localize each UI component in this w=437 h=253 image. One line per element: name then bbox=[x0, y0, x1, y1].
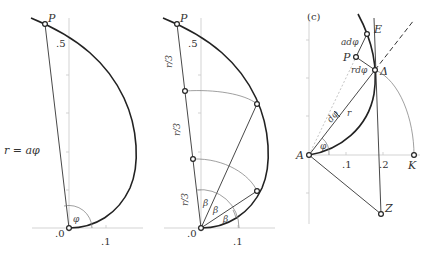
label-P: P bbox=[47, 12, 56, 25]
point-P bbox=[175, 22, 180, 27]
point-P bbox=[43, 22, 48, 27]
label-segment-bottom: r/3 bbox=[180, 193, 190, 206]
panel-a: P .5 .0 .1 r = aφ φ bbox=[4, 12, 143, 247]
label-origin: .0 bbox=[187, 228, 197, 239]
label-Z: Z bbox=[384, 202, 393, 215]
origin-point bbox=[199, 226, 204, 231]
label-beta-1: β bbox=[202, 198, 208, 208]
point-K bbox=[412, 153, 417, 158]
label-beta-2: β bbox=[212, 205, 218, 215]
label-y-tick: .5 bbox=[56, 38, 66, 49]
radius-A-P bbox=[309, 57, 356, 155]
radius-line bbox=[45, 24, 69, 228]
arc-delta-K bbox=[375, 70, 414, 155]
label-angle: φ bbox=[320, 141, 327, 151]
label-d-phi: dφ bbox=[325, 108, 341, 124]
curve-point-lower bbox=[255, 189, 260, 194]
label-x-tick-1: .1 bbox=[342, 159, 352, 170]
label-delta: Δ bbox=[379, 65, 388, 78]
panel-tag: (c) bbox=[307, 11, 321, 22]
curve-point-upper bbox=[255, 102, 260, 107]
point-A bbox=[307, 153, 312, 158]
point-Z bbox=[379, 212, 384, 217]
point-E bbox=[365, 32, 370, 37]
label-P: P bbox=[342, 51, 351, 64]
label-ad-phi: adφ bbox=[341, 37, 359, 47]
label-r: r bbox=[347, 108, 352, 118]
origin-point bbox=[67, 226, 72, 231]
trisect-point-upper bbox=[183, 89, 188, 94]
label-angle: φ bbox=[73, 214, 80, 224]
panel-c: (c) E P Δ A K Z adφ rdφ dφ r φ .1 .2 bbox=[295, 11, 420, 224]
line-E-Z bbox=[374, 18, 381, 214]
spiral-curve bbox=[31, 18, 136, 228]
label-E: E bbox=[373, 23, 382, 36]
label-rd-phi: rdφ bbox=[351, 65, 368, 75]
point-delta bbox=[373, 68, 378, 73]
label-origin: .0 bbox=[55, 228, 65, 239]
arc-two-thirds bbox=[185, 91, 257, 104]
label-segment-mid: r/3 bbox=[172, 123, 182, 136]
label-y-tick: .5 bbox=[188, 38, 198, 49]
label-x-tick-2: .2 bbox=[379, 159, 389, 170]
label-P: P bbox=[179, 12, 188, 25]
label-A: A bbox=[295, 149, 304, 162]
label-K: K bbox=[407, 159, 417, 172]
label-beta-3: β bbox=[222, 214, 228, 224]
archimedean-spiral-figure: P .5 .0 .1 r = aφ φ P bbox=[0, 0, 437, 253]
label-radius-eq: r = aφ bbox=[4, 144, 40, 157]
panel-b: P .5 .0 .1 r/3 r/3 r/3 β β β bbox=[163, 12, 275, 247]
label-x-tick: .1 bbox=[101, 236, 111, 247]
label-x-tick: .1 bbox=[233, 236, 243, 247]
point-P bbox=[354, 55, 359, 60]
trisect-point-lower bbox=[191, 157, 196, 162]
label-segment-top: r/3 bbox=[164, 55, 174, 68]
